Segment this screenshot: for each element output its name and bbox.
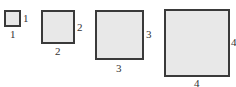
square-3 <box>95 10 144 60</box>
square-1-bottom-label: 1 <box>10 29 16 40</box>
square-2-side-label: 2 <box>77 22 83 33</box>
square-4-side-label: 4 <box>231 37 236 48</box>
square-3-bottom-label: 3 <box>116 63 122 74</box>
square-4 <box>164 9 230 77</box>
square-4-bottom-label: 4 <box>194 78 200 87</box>
square-2-bottom-label: 2 <box>55 46 61 57</box>
square-2 <box>41 10 75 44</box>
square-1-side-label: 1 <box>23 13 29 24</box>
square-1 <box>4 10 21 27</box>
square-3-side-label: 3 <box>146 29 152 40</box>
